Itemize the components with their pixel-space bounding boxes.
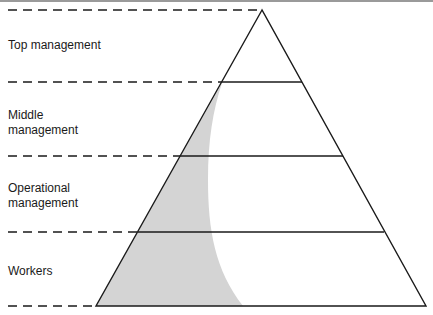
shaded-region <box>96 83 243 306</box>
label-line: Workers <box>8 264 52 279</box>
level-label-operational-management: Operational management <box>8 181 78 211</box>
level-label-middle-management: Middle management <box>8 108 78 138</box>
level-label-workers: Workers <box>8 264 52 279</box>
label-line: management <box>8 123 78 138</box>
label-line: management <box>8 196 78 211</box>
level-label-top-management: Top management <box>8 38 101 53</box>
label-line: Operational <box>8 181 78 196</box>
label-line: Middle <box>8 108 78 123</box>
label-line: Top management <box>8 38 101 53</box>
